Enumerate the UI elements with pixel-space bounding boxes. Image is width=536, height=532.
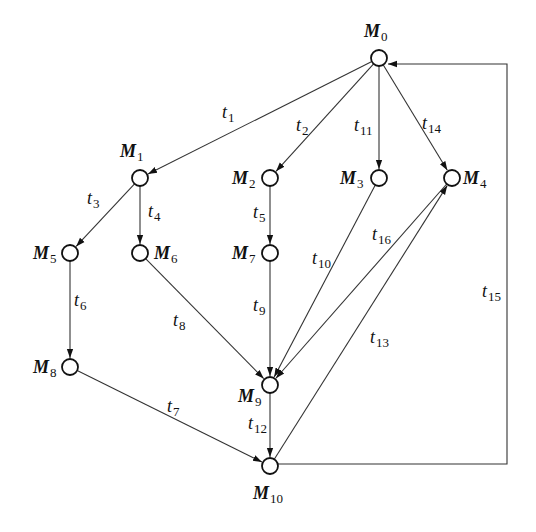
marking-label-M0: M0 <box>363 21 388 44</box>
edge-t14 <box>383 65 447 170</box>
edge-t8 <box>146 259 264 379</box>
marking-label-M10: M10 <box>252 483 283 506</box>
marking-label-M0-subscript: 0 <box>381 29 388 44</box>
transition-label-t11: t11 <box>354 115 373 138</box>
transition-label-t1: t1 <box>222 102 235 125</box>
marking-label-M7: M7 <box>231 243 256 266</box>
marking-node-M2 <box>262 170 278 186</box>
edge-t10 <box>274 185 375 377</box>
marking-label-M5: M5 <box>32 243 57 266</box>
marking-label-M3-subscript: 3 <box>357 176 364 191</box>
transition-label-t11-subscript: 11 <box>360 123 373 138</box>
transition-label-t9: t9 <box>253 295 266 318</box>
marking-label-M9-base: M <box>237 386 255 406</box>
marking-node-M9 <box>262 377 278 393</box>
marking-label-M10-subscript: 10 <box>270 491 283 506</box>
edge-t13 <box>274 186 447 460</box>
labels: t1t2t11t14t3t4t5t6t8t9t10t16t7t12t13t15M… <box>32 21 501 506</box>
nodes <box>62 50 460 474</box>
marking-node-M5 <box>62 245 78 261</box>
marking-node-M8 <box>62 359 78 375</box>
marking-label-M6: M6 <box>153 243 178 266</box>
transition-label-t12: t12 <box>248 413 267 436</box>
marking-node-M1 <box>132 170 148 186</box>
marking-label-M1-base: M <box>119 141 137 161</box>
marking-node-M6 <box>132 245 148 261</box>
marking-label-M8-subscript: 8 <box>50 365 57 380</box>
transition-label-t4: t4 <box>148 201 161 224</box>
marking-node-M0 <box>371 50 387 66</box>
marking-label-M10-base: M <box>252 483 270 503</box>
transition-label-t15: t15 <box>482 281 501 304</box>
transition-label-t3-subscript: 3 <box>93 196 100 211</box>
transition-label-t9-subscript: 9 <box>259 303 266 318</box>
marking-node-M3 <box>371 170 387 186</box>
marking-label-M6-base: M <box>153 243 171 263</box>
transition-label-t2: t2 <box>296 115 309 138</box>
marking-label-M2-base: M <box>231 168 249 188</box>
marking-label-M2: M2 <box>231 168 256 191</box>
edge-t1 <box>148 62 372 174</box>
marking-label-M4-base: M <box>462 168 480 188</box>
marking-label-M5-subscript: 5 <box>50 251 57 266</box>
marking-label-M3-base: M <box>339 168 357 188</box>
marking-label-M8: M8 <box>32 357 57 380</box>
transition-label-t5-subscript: 5 <box>259 210 266 225</box>
transition-label-t16-subscript: 16 <box>378 232 392 247</box>
marking-label-M9: M9 <box>237 386 262 409</box>
marking-label-M7-subscript: 7 <box>249 251 256 266</box>
transition-label-t8: t8 <box>173 310 186 333</box>
edge-t7 <box>77 371 262 462</box>
transition-label-t6: t6 <box>74 290 87 313</box>
transition-label-t3: t3 <box>87 188 100 211</box>
marking-label-M5-base: M <box>32 243 50 263</box>
marking-label-M7-base: M <box>231 243 249 263</box>
marking-label-M4-subscript: 4 <box>480 176 487 191</box>
transition-label-t7: t7 <box>167 396 180 419</box>
marking-label-M8-base: M <box>32 357 50 377</box>
transition-label-t10: t10 <box>312 248 331 271</box>
marking-node-M10 <box>262 458 278 474</box>
marking-node-M7 <box>262 245 278 261</box>
transition-label-t5: t5 <box>253 202 266 225</box>
edges <box>70 62 507 464</box>
marking-label-M1: M1 <box>119 141 144 164</box>
marking-label-M9-subscript: 9 <box>255 394 262 409</box>
transition-label-t13-subscript: 13 <box>376 335 389 350</box>
transition-label-t16: t16 <box>372 224 392 247</box>
transition-label-t14: t14 <box>422 113 442 136</box>
reachability-graph: t1t2t11t14t3t4t5t6t8t9t10t16t7t12t13t15M… <box>0 0 536 532</box>
transition-label-t10-subscript: 10 <box>318 256 331 271</box>
marking-label-M1-subscript: 1 <box>137 149 144 164</box>
marking-node-M4 <box>444 170 460 186</box>
transition-label-t1-subscript: 1 <box>228 110 235 125</box>
marking-label-M2-subscript: 2 <box>249 176 256 191</box>
transition-label-t4-subscript: 4 <box>154 209 161 224</box>
transition-label-t7-subscript: 7 <box>173 404 180 419</box>
transition-label-t2-subscript: 2 <box>302 123 309 138</box>
marking-label-M3: M3 <box>339 168 364 191</box>
transition-label-t14-subscript: 14 <box>428 121 442 136</box>
transition-label-t12-subscript: 12 <box>254 421 267 436</box>
edge-t3 <box>76 184 134 247</box>
transition-label-t8-subscript: 8 <box>179 318 186 333</box>
marking-label-M0-base: M <box>363 21 381 41</box>
marking-label-M4: M4 <box>462 168 487 191</box>
marking-label-M6-subscript: 6 <box>171 251 178 266</box>
edge-t16 <box>276 184 447 378</box>
transition-label-t15-subscript: 15 <box>488 289 501 304</box>
transition-label-t6-subscript: 6 <box>80 298 87 313</box>
transition-label-t13: t13 <box>370 327 389 350</box>
